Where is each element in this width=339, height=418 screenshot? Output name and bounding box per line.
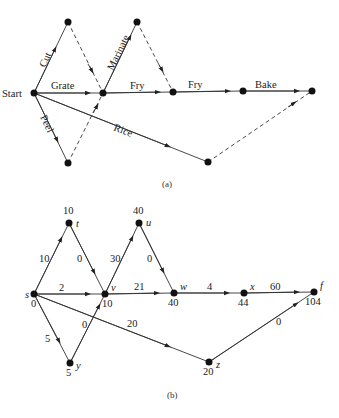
edge-label-peel: Peel — [38, 113, 56, 134]
start-label: Start — [2, 88, 22, 99]
node-cut — [65, 19, 72, 26]
node-fry-2 — [240, 88, 247, 95]
node-name-v: v — [111, 282, 116, 293]
edge-dummy-rice — [208, 91, 312, 162]
edge-label-fry-2: Fry — [188, 79, 203, 90]
node-peel — [65, 160, 72, 167]
edge-t-v — [69, 223, 105, 294]
node-value-y: 5 — [66, 367, 71, 378]
node-end — [309, 88, 316, 95]
edge-fry-1 — [103, 92, 173, 93]
edge-z-f — [209, 292, 314, 362]
node-rice — [205, 159, 212, 166]
edge-dummy-peel — [68, 93, 103, 163]
node-z — [206, 359, 213, 366]
node-value-w: 40 — [168, 297, 179, 308]
node-name-w: w — [180, 281, 187, 292]
edge-weight-u-w: 0 — [147, 253, 152, 264]
node-y — [67, 360, 74, 367]
node-name-t: t — [76, 218, 80, 229]
node-start — [31, 90, 38, 97]
node-f — [311, 289, 318, 296]
edge-weight-w-x: 4 — [207, 281, 213, 292]
edge-weight-z-f: 0 — [276, 316, 281, 327]
node-value-f: 104 — [305, 296, 322, 307]
node-value-v: 10 — [102, 298, 113, 309]
edge-weight-v-u: 30 — [110, 253, 121, 264]
edge-label-marinate: Marinate — [105, 33, 132, 72]
edge-weight-v-w: 21 — [134, 281, 145, 292]
node-name-s: s — [25, 289, 29, 300]
edge-weight-s-y: 5 — [45, 333, 50, 344]
edge-label-grate: Grate — [51, 80, 75, 91]
node-name-z: z — [215, 359, 220, 370]
node-s — [31, 291, 38, 298]
edge-weight-s-t: 10 — [39, 253, 50, 264]
node-x — [241, 290, 248, 297]
edge-x-f — [244, 292, 314, 293]
node-v — [102, 291, 109, 298]
edge-s-z — [34, 294, 209, 362]
edge-label-rice: Rice — [112, 122, 134, 139]
node-w — [171, 290, 178, 297]
node-value-x: 44 — [238, 297, 249, 308]
diagram-canvas: Start Cut Grate Peel Marinate Fry Fry Ba… — [0, 0, 339, 418]
edge-weight-t-v: 0 — [77, 253, 82, 264]
node-fry-1 — [170, 89, 177, 96]
edge-label-cut: Cut — [37, 50, 54, 69]
caption-b: (b) — [167, 390, 178, 400]
edge-weight-s-v: 2 — [59, 282, 64, 293]
node-mid — [100, 90, 107, 97]
node-name-f: f — [320, 280, 325, 291]
node-u — [136, 220, 143, 227]
node-name-x: x — [249, 281, 255, 292]
edge-fry-2 — [173, 91, 243, 92]
caption-a: (a) — [162, 179, 172, 189]
edge-weight-s-z: 20 — [127, 318, 138, 329]
node-value-u: 40 — [133, 205, 144, 216]
edge-y-v — [70, 294, 105, 363]
node-value-z: 20 — [203, 366, 214, 377]
edge-v-w — [105, 293, 174, 294]
node-name-y: y — [75, 360, 81, 371]
node-marinate — [134, 19, 141, 26]
edge-weight-y-v: 0 — [82, 319, 87, 330]
edge-label-fry-1: Fry — [130, 80, 145, 91]
edge-label-bake: Bake — [255, 79, 277, 90]
node-t — [66, 220, 73, 227]
edge-s-y — [34, 294, 70, 363]
diagram-a: Start Cut Grate Peel Marinate Fry Fry Ba… — [2, 19, 316, 190]
node-name-u: u — [146, 217, 151, 228]
edge-weight-x-f: 60 — [270, 281, 281, 292]
node-value-s: 0 — [31, 298, 36, 309]
node-value-t: 10 — [63, 205, 74, 216]
diagram-b: s t v u w x f y z 0 10 10 40 40 44 104 5… — [25, 205, 325, 400]
